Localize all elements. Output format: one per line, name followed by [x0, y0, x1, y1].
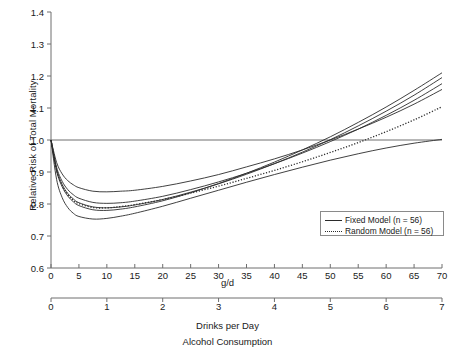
drinks-tick-label: 6: [383, 301, 388, 312]
drinks-tick-label: 7: [439, 301, 444, 312]
legend-label-fixed-model: Fixed Model (n = 56): [345, 215, 422, 225]
drinks-tick-label: 2: [160, 301, 165, 312]
drinks-axis-tick-labels: 01234567: [0, 301, 455, 313]
legend-item-random-model: Random Model (n = 56): [325, 225, 439, 236]
svg-text:1.4: 1.4: [31, 7, 44, 18]
series-line-4: [51, 139, 442, 219]
series-line-5: [51, 107, 442, 208]
drinks-tick-label: 0: [48, 301, 53, 312]
axes-group: 0.60.70.80.91.01.11.21.31.4: [31, 7, 442, 302]
drinks-tick-label: 4: [272, 301, 277, 312]
series-line-1: [51, 84, 442, 204]
series-line-2: [51, 78, 442, 208]
legend-label-random-model: Random Model (n = 56): [345, 226, 433, 236]
drinks-tick-label: 3: [216, 301, 221, 312]
series-line-0: [51, 89, 442, 191]
curves-group: [51, 73, 442, 219]
drinks-tick-label: 1: [104, 301, 109, 312]
gd-axis-title: g/d: [0, 277, 455, 288]
series-line-3: [51, 73, 442, 211]
y-axis-title: Relative Risk of Total Mortality: [27, 46, 38, 246]
drinks-tick-label: 5: [328, 301, 333, 312]
drinks-axis-title: Drinks per Day: [0, 320, 455, 331]
solid-line-swatch-icon: [325, 216, 342, 224]
x-axis-overall-title: Alcohol Consumption: [0, 336, 455, 347]
chart-figure: 0.60.70.80.91.01.11.21.31.4 Relative Ris…: [0, 0, 455, 357]
legend-item-fixed-model: Fixed Model (n = 56): [325, 214, 439, 225]
chart-legend: Fixed Model (n = 56) Random Model (n = 5…: [320, 211, 444, 236]
dotted-line-swatch-icon: [325, 227, 342, 235]
